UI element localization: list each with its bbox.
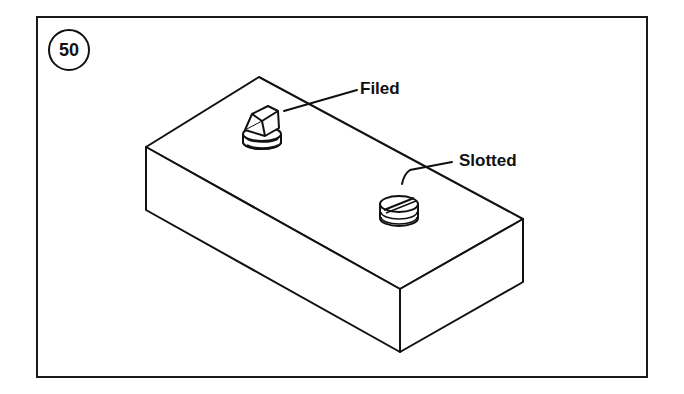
slotted-plug-icon	[380, 196, 418, 226]
block-illustration	[0, 0, 684, 394]
label-filed: Filed	[360, 79, 400, 99]
label-slotted: Slotted	[459, 151, 517, 171]
